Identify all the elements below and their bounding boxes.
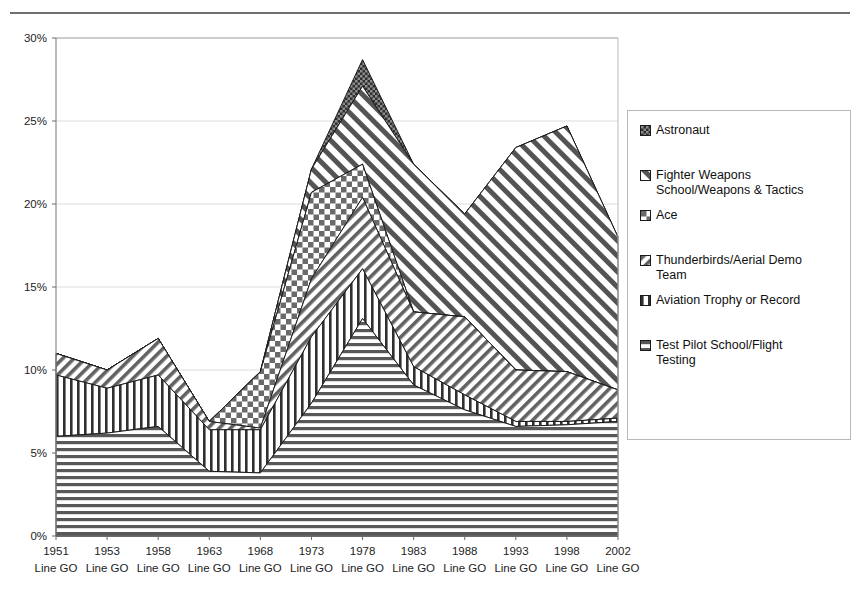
y-tick-label: 10%: [24, 364, 47, 376]
y-tick-label: 25%: [24, 115, 47, 127]
x-tick-label: 1988: [452, 545, 478, 557]
vertical-lines-swatch: [640, 295, 651, 306]
horizontal-lines-swatch: [640, 340, 651, 351]
chart-page: 0%5%10%15%20%25%30% 1951Line GO1953Line …: [0, 0, 861, 591]
dense-checker-dark-swatch: [640, 125, 651, 136]
x-tick-sublabel: Line GO: [597, 562, 640, 574]
y-tick-label: 30%: [24, 32, 47, 44]
x-tick-sublabel: Line GO: [443, 562, 486, 574]
legend-item[interactable]: Aviation Trophy or Record: [640, 293, 842, 308]
x-tick-label: 1973: [299, 545, 325, 557]
x-axis-tick-labels: 1951Line GO1953Line GO1958Line GO1963Lin…: [35, 536, 640, 574]
x-tick-label: 1983: [401, 545, 427, 557]
legend-item-label: Ace: [656, 208, 678, 223]
x-tick-sublabel: Line GO: [239, 562, 282, 574]
y-tick-label: 20%: [24, 198, 47, 210]
legend-item-label: Thunderbirds/Aerial Demo Team: [656, 253, 802, 283]
legend-items-list: AstronautFighter Weapons School/Weapons …: [628, 111, 850, 439]
legend-item[interactable]: Astronaut: [640, 123, 842, 138]
x-tick-sublabel: Line GO: [545, 562, 588, 574]
y-tick-label: 5%: [30, 447, 47, 459]
legend-item[interactable]: Fighter Weapons School/Weapons & Tactics: [640, 168, 842, 198]
legend-item[interactable]: Ace: [640, 208, 842, 223]
x-tick-sublabel: Line GO: [392, 562, 435, 574]
legend-item-label: Astronaut: [656, 123, 710, 138]
x-tick-sublabel: Line GO: [341, 562, 384, 574]
legend-item[interactable]: Test Pilot School/Flight Testing: [640, 338, 842, 368]
x-tick-label: 1963: [196, 545, 222, 557]
x-tick-label: 1993: [503, 545, 529, 557]
legend-item[interactable]: Thunderbirds/Aerial Demo Team: [640, 253, 842, 283]
y-tick-label: 15%: [24, 281, 47, 293]
legend-item-label: Fighter Weapons School/Weapons & Tactics: [656, 168, 804, 198]
x-tick-label: 2002: [605, 545, 631, 557]
y-axis-tick-labels: 0%5%10%15%20%25%30%: [24, 32, 56, 542]
x-tick-label: 1968: [248, 545, 274, 557]
legend-item-label: Test Pilot School/Flight Testing: [656, 338, 782, 368]
x-tick-label: 1978: [350, 545, 376, 557]
legend-item-label: Aviation Trophy or Record: [656, 293, 800, 308]
x-tick-sublabel: Line GO: [290, 562, 333, 574]
diagonal-ne-swatch: [640, 255, 651, 266]
y-tick-label: 0%: [30, 530, 47, 542]
x-tick-label: 1953: [94, 545, 120, 557]
x-tick-sublabel: Line GO: [137, 562, 180, 574]
diagonal-nw-swatch: [640, 170, 651, 181]
checkerboard-swatch: [640, 210, 651, 221]
x-tick-label: 1951: [43, 545, 69, 557]
x-tick-sublabel: Line GO: [494, 562, 537, 574]
x-tick-label: 1998: [554, 545, 580, 557]
x-tick-sublabel: Line GO: [35, 562, 78, 574]
x-tick-sublabel: Line GO: [86, 562, 129, 574]
chart-legend: AstronautFighter Weapons School/Weapons …: [627, 110, 851, 440]
x-tick-label: 1958: [145, 545, 171, 557]
x-tick-sublabel: Line GO: [188, 562, 231, 574]
